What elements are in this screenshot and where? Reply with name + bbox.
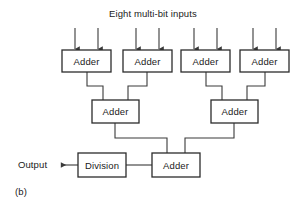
diagram-title: Eight multi-bit inputs [109, 8, 197, 19]
edges-row2-to-row3 [115, 123, 234, 153]
input-arrows-group [75, 28, 276, 49]
diagram-canvas [0, 0, 300, 212]
adder-tree-diagram: Adder Adder Adder Adder Adder Adder Adde… [0, 0, 300, 212]
output-label: Output [18, 159, 47, 170]
edge-adder3-to-adder6 [206, 72, 222, 100]
adder-box-1[interactable] [62, 50, 111, 72]
figure-caption: (b) [15, 186, 27, 197]
adder-box-2[interactable] [123, 50, 172, 72]
adder-row-1-boxes [62, 50, 289, 72]
edge-adder5-to-adder7 [115, 123, 167, 153]
adder-box-3[interactable] [181, 50, 230, 72]
adder-row-2-boxes [92, 100, 258, 123]
edge-adder6-to-adder7 [185, 123, 234, 153]
edge-adder2-to-adder5 [128, 72, 147, 100]
edge-adder1-to-adder5 [87, 72, 103, 100]
edges-row1-to-row2 [87, 72, 265, 100]
edge-adder4-to-adder6 [247, 72, 265, 100]
adder-box-4[interactable] [240, 50, 289, 72]
adder-box-5[interactable] [92, 100, 139, 123]
adder-box-6[interactable] [211, 100, 258, 123]
adder-box-7[interactable] [152, 153, 200, 177]
division-box[interactable] [78, 153, 126, 177]
